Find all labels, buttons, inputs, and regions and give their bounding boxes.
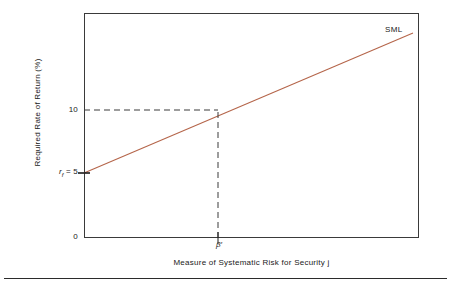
- bottom-divider: [4, 278, 447, 279]
- plot-area-frame: [84, 13, 419, 238]
- y-axis-tick-label-10: 10: [38, 105, 78, 114]
- series-label-sml: SML: [385, 25, 403, 34]
- y-axis-title: Required Rate of Return (%): [33, 38, 42, 188]
- risk-free-rate-value: = 5: [64, 167, 78, 176]
- y-axis-tick-label-risk-free-rate: rf = 5: [38, 167, 78, 178]
- y-axis-tick-label-zero: 0: [38, 232, 78, 241]
- x-axis-tick-label-beta-prime: β′: [206, 240, 232, 249]
- x-axis-title: Measure of Systematic Risk for Security …: [84, 258, 419, 267]
- figure-container: 10 rf = 5 0 β′ Measure of Systematic Ris…: [0, 0, 451, 290]
